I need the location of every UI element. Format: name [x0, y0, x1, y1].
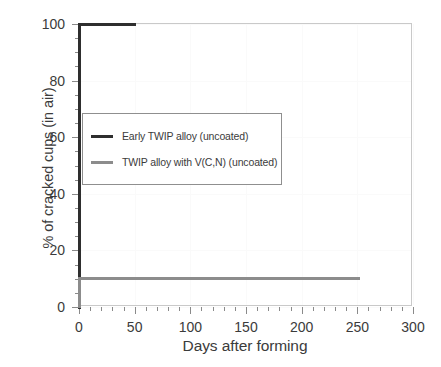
x-tick-minor	[213, 307, 214, 311]
x-tick-major	[413, 307, 414, 314]
x-tick-label: 200	[290, 319, 313, 335]
y-tick-label: 20	[49, 242, 65, 258]
legend-line-swatch	[91, 135, 113, 138]
x-axis-title: Days after forming	[78, 337, 412, 355]
series-segment-vertical	[78, 24, 81, 309]
x-tick-major	[246, 307, 247, 314]
x-tick-minor	[380, 307, 381, 311]
x-tick-major	[302, 307, 303, 314]
series-segment-horizontal	[79, 23, 136, 26]
series-segment-horizontal	[78, 277, 352, 280]
x-tick-minor	[168, 307, 169, 311]
gridline-vertical	[302, 24, 303, 305]
x-tick-minor	[157, 307, 158, 311]
x-tick-minor	[90, 307, 91, 311]
chart-legend: Early TWIP alloy (uncoated) TWIP alloy w…	[82, 113, 282, 185]
x-tick-minor	[235, 307, 236, 311]
x-tick-minor	[368, 307, 369, 311]
y-tick-label: 100	[42, 16, 65, 32]
y-tick-label: 80	[49, 73, 65, 89]
x-tick-minor	[324, 307, 325, 311]
x-tick-label: 0	[75, 319, 83, 335]
x-tick-minor	[124, 307, 125, 311]
gridline-horizontal	[79, 194, 411, 195]
y-tick-label: 40	[49, 186, 65, 202]
chart-figure: % of cracked cups (in air) 0501001502002…	[0, 0, 441, 367]
x-tick-label: 250	[346, 319, 369, 335]
x-tick-minor	[313, 307, 314, 311]
x-tick-minor	[201, 307, 202, 311]
gridline-vertical	[413, 24, 414, 305]
x-tick-label: 300	[401, 319, 424, 335]
x-tick-minor	[112, 307, 113, 311]
legend-item-label: Early TWIP alloy (uncoated)	[122, 130, 248, 142]
x-tick-label: 100	[179, 319, 202, 335]
x-tick-minor	[335, 307, 336, 311]
x-tick-minor	[391, 307, 392, 311]
series-segment-vertical	[78, 279, 81, 309]
legend-item-label: TWIP alloy with V(C,N) (uncoated)	[122, 156, 277, 168]
gridline-vertical	[357, 24, 358, 305]
x-tick-label: 50	[127, 319, 143, 335]
x-tick-minor	[101, 307, 102, 311]
x-tick-minor	[279, 307, 280, 311]
x-tick-minor	[179, 307, 180, 311]
gridline-horizontal	[79, 81, 411, 82]
x-tick-major	[357, 307, 358, 314]
x-tick-minor	[402, 307, 403, 311]
legend-item: TWIP alloy with V(C,N) (uncoated)	[91, 149, 271, 175]
y-tick-label: 0	[57, 299, 65, 315]
x-tick-minor	[146, 307, 147, 311]
x-tick-major	[135, 307, 136, 314]
y-tick-label: 60	[49, 129, 65, 145]
gridline-horizontal	[79, 250, 411, 251]
x-tick-minor	[224, 307, 225, 311]
x-tick-label: 150	[234, 319, 257, 335]
gridline-horizontal	[79, 307, 411, 308]
legend-line-swatch	[91, 161, 113, 164]
series-segment-horizontal	[350, 277, 359, 280]
legend-item: Early TWIP alloy (uncoated)	[91, 123, 271, 149]
x-tick-minor	[346, 307, 347, 311]
x-tick-minor	[268, 307, 269, 311]
x-tick-major	[190, 307, 191, 314]
x-tick-minor	[291, 307, 292, 311]
x-tick-minor	[257, 307, 258, 311]
